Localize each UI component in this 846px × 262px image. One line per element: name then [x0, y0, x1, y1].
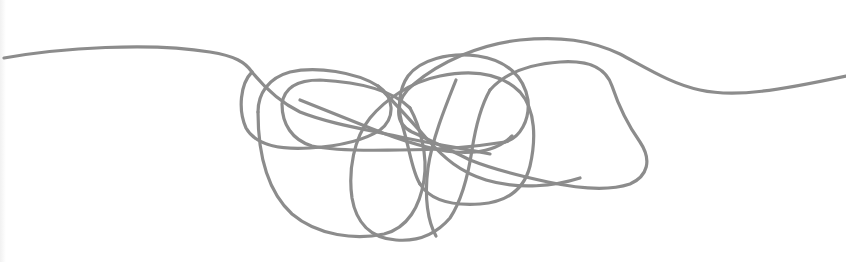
- loop-upper-arch: [399, 39, 846, 160]
- loop-lower: [258, 108, 425, 237]
- strand-diagonal-b: [378, 86, 580, 186]
- loop-inner-left: [282, 80, 505, 150]
- loop-right-teardrop: [470, 62, 647, 189]
- illustration-canvas: [0, 0, 846, 262]
- tangled-line-strokes: [4, 39, 846, 241]
- left-tail: [4, 47, 490, 154]
- tangled-line-icon: [0, 0, 846, 262]
